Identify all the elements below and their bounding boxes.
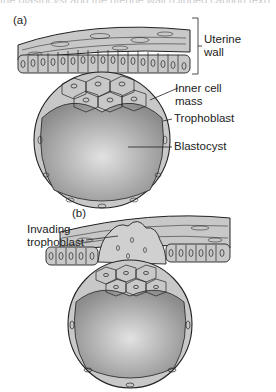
label-inner-cell-mass: Inner cell mass [175,82,222,108]
label-trophoblast: Trophoblast [174,112,234,125]
panel-a-label: (a) [13,14,27,26]
label-invading-trophoblast: Invading trophoblast [27,223,84,249]
panel-b-blastocyst [68,260,192,388]
label-inner-cell-mass-line1: Inner cell [175,82,222,95]
panel-a-uterine-wall [18,27,190,73]
label-invading-trophoblast-line1: Invading [27,223,84,236]
label-inner-cell-mass-line2: mass [175,95,222,108]
panel-a-blastocyst [34,72,170,210]
panel-b-label: (b) [72,207,86,219]
label-uterine-wall: Uterine wall [204,33,241,59]
label-invading-trophoblast-line2: trophoblast [27,236,84,249]
label-uterine-wall-line1: Uterine [204,33,241,46]
label-uterine-wall-line2: wall [204,46,241,59]
label-blastocyst: Blastocyst [174,140,226,153]
